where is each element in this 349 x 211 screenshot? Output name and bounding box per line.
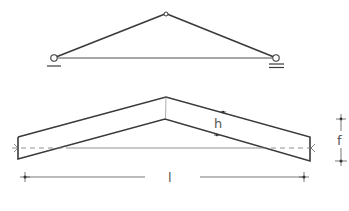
beam-outline xyxy=(18,97,310,161)
span-dimension xyxy=(20,172,309,182)
apex-hinge-icon xyxy=(164,12,168,16)
span-label: l xyxy=(168,170,172,185)
rise-bottom-tick-icon xyxy=(340,160,343,163)
right-rafter xyxy=(167,14,274,57)
span-start-tick-icon xyxy=(24,176,27,179)
depth-label: h xyxy=(214,116,222,131)
h-tick-top-icon xyxy=(222,111,225,114)
left-pin-icon xyxy=(51,55,57,61)
pitched-beam xyxy=(12,97,316,161)
left-rafter xyxy=(56,14,165,57)
truss-scheme xyxy=(47,12,284,68)
span-end-tick-icon xyxy=(303,176,306,179)
apex-line xyxy=(166,97,167,119)
rise-label: f xyxy=(337,133,342,148)
structural-diagram: h l f xyxy=(0,0,349,211)
right-pin-icon xyxy=(273,55,279,61)
rise-top-tick-icon xyxy=(340,118,343,121)
